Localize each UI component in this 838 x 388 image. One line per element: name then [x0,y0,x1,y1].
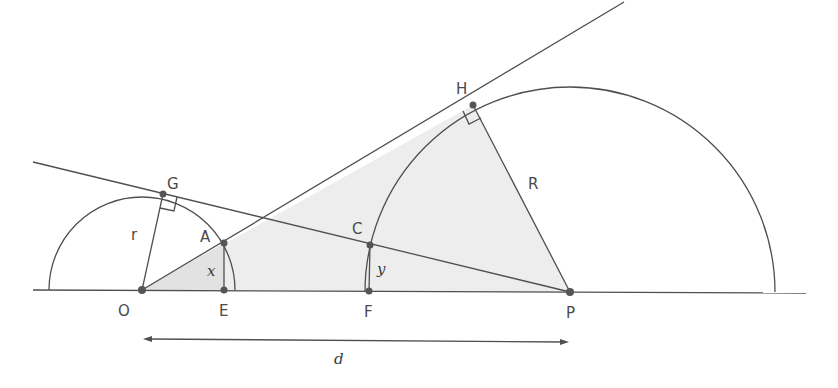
point-P [566,288,574,296]
label-R: R [528,175,538,193]
label-P: P [566,304,575,322]
point-G [160,191,167,198]
arrowhead-right [560,339,569,345]
point-C [367,242,374,249]
label-F: F [364,303,373,321]
point-O [138,286,146,294]
label-d: d [334,350,344,368]
label-r: r [131,226,138,244]
label-C: C [352,220,362,238]
label-G: G [167,175,179,193]
geometry-diagram: O E F P A C G H r R x y d [0,0,838,388]
label-x: x [207,262,216,280]
radius-r-OG [142,194,163,290]
label-E: E [219,302,228,320]
label-A: A [200,228,211,246]
label-O: O [118,302,130,320]
point-A [221,240,228,247]
label-H: H [456,80,467,98]
distance-arrow-d [150,339,562,342]
point-H [470,102,477,109]
point-F [366,288,373,295]
arrowhead-left [143,336,152,342]
point-E [221,287,228,294]
label-y: y [376,260,386,278]
